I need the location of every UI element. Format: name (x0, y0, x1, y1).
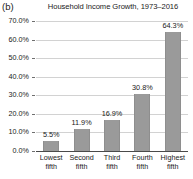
bar (74, 129, 90, 151)
y-tick-mark (32, 77, 35, 78)
y-axis-tick-label: 0.0% (0, 147, 29, 155)
bar-value-label: 11.9% (60, 119, 104, 127)
y-tick-mark (32, 40, 35, 41)
y-axis-tick-label: 30.0% (0, 91, 29, 99)
plot-area: 70.0%60.0%50.0%40.0%30.0%20.0%10.0%0.0%5… (36, 21, 188, 151)
y-tick-mark (32, 21, 35, 22)
y-tick-mark (32, 95, 35, 96)
bar (104, 120, 120, 151)
chart-title: Household Income Growth, 1973–2016 (34, 2, 192, 12)
figure-panel-b: (b) Household Income Growth, 1973–2016 7… (0, 0, 193, 179)
x-axis-tick-label-line2: fifth (155, 163, 191, 172)
bar (43, 141, 59, 151)
axis-baseline (36, 151, 188, 152)
y-axis-tick-label: 20.0% (0, 110, 29, 118)
bar-value-label: 16.9% (90, 110, 134, 118)
bar (165, 32, 181, 151)
bar (134, 94, 150, 151)
y-axis-tick-label: 40.0% (0, 73, 29, 81)
y-axis-tick-label: 70.0% (0, 17, 29, 25)
y-tick-mark (32, 114, 35, 115)
y-axis-tick-label: 50.0% (0, 54, 29, 62)
bar-value-label: 5.5% (29, 131, 73, 139)
x-axis-tick-label: Highestfifth (155, 154, 191, 171)
panel-label: (b) (2, 1, 14, 12)
y-tick-mark (32, 58, 35, 59)
y-axis-tick-label: 60.0% (0, 36, 29, 44)
bar-value-label: 64.3% (151, 22, 193, 30)
y-axis-tick-label: 10.0% (0, 128, 29, 136)
y-tick-mark (32, 151, 35, 152)
bar-value-label: 30.8% (120, 84, 164, 92)
